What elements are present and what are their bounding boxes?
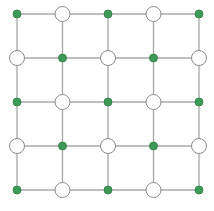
hollow-node: [192, 51, 207, 66]
filled-node: [150, 142, 158, 150]
hollow-node: [146, 183, 161, 198]
filled-node: [104, 98, 112, 106]
hollow-node: [192, 139, 207, 154]
filled-node: [195, 186, 203, 194]
hollow-node: [101, 51, 116, 66]
hollow-node: [55, 7, 70, 22]
filled-node: [195, 98, 203, 106]
filled-node: [195, 10, 203, 18]
filled-node: [13, 186, 21, 194]
hollow-node: [10, 51, 25, 66]
hollow-node: [10, 139, 25, 154]
filled-node: [59, 54, 67, 62]
filled-node: [13, 98, 21, 106]
filled-node: [104, 186, 112, 194]
hollow-node: [101, 139, 116, 154]
filled-node: [13, 10, 21, 18]
hollow-node: [55, 95, 70, 110]
filled-node: [150, 54, 158, 62]
filled-node: [59, 142, 67, 150]
filled-node: [104, 10, 112, 18]
grid-diagram: [0, 0, 214, 211]
hollow-node: [55, 183, 70, 198]
hollow-node: [146, 95, 161, 110]
hollow-node: [146, 7, 161, 22]
